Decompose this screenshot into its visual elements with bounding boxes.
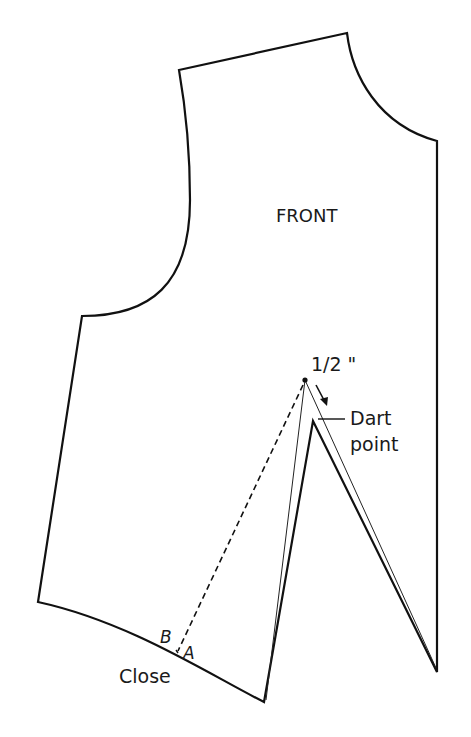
dart-label-line2: point — [350, 433, 398, 455]
dart-leg-left-thin — [266, 380, 305, 700]
point-a-label: A — [182, 643, 195, 663]
dart-label-line1: Dart — [350, 407, 392, 429]
measurement-label: 1/2 " — [311, 353, 356, 375]
point-b-label: B — [160, 627, 172, 647]
pivot-dot — [302, 377, 307, 382]
piece-label: FRONT — [276, 205, 338, 226]
front-bodice-pattern-diagram: FRONT 1/2 " Dart point B A Close — [0, 0, 471, 737]
arrow-icon — [316, 385, 328, 406]
pattern-outline — [38, 33, 437, 702]
dashed-slash-line — [178, 385, 303, 651]
close-label: Close — [119, 665, 171, 687]
